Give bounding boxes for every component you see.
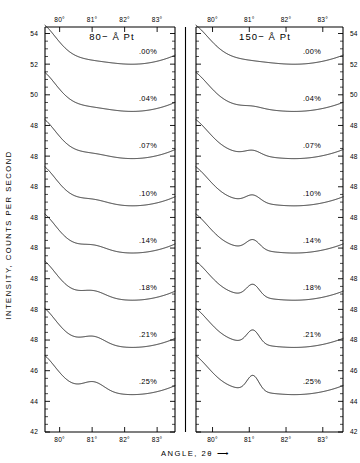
curve-label: .25%: [303, 377, 321, 386]
curve-label: .14%: [139, 236, 157, 245]
x-tick-label: 81°: [244, 436, 255, 443]
y-tick-label: 48: [350, 336, 358, 343]
curve-label: .04%: [139, 94, 157, 103]
y-tick-label: 48: [30, 336, 38, 343]
curve-label: .18%: [303, 283, 321, 292]
y-tick-label: 42: [30, 428, 38, 435]
diffraction-curve: [45, 120, 175, 159]
x-tick-label: 80°: [54, 436, 65, 443]
y-tick-label: 48: [350, 214, 358, 221]
y-tick-label: 50: [350, 91, 358, 98]
curve-label: .00%: [303, 47, 321, 56]
y-tick-label: 48: [30, 153, 38, 160]
y-tick-label: 48: [30, 275, 38, 282]
y-axis-title: INTENSITY, COUNTS PER SECOND: [4, 150, 13, 319]
y-tick-label: 46: [350, 367, 358, 374]
x-tick-label: 81°: [87, 16, 98, 23]
curve-label: .00%: [139, 47, 157, 56]
diffraction-curve: [196, 72, 343, 111]
diffraction-plot: .00%.04%.07%.10%.14%.18%.21%.25%.00%.04%…: [0, 0, 360, 463]
diffraction-curve: [196, 167, 343, 206]
y-tick-label: 52: [350, 61, 358, 68]
y-tick-label: 48: [30, 183, 38, 190]
y-tick-label: 48: [30, 244, 38, 251]
x-tick-label: 83°: [317, 16, 328, 23]
y-tick-label: 48: [30, 214, 38, 221]
diffraction-curve: [196, 308, 343, 347]
x-tick-label: 82°: [281, 436, 292, 443]
x-axis-title: ANGLE, 2θ ⟶: [161, 449, 229, 458]
diffraction-curve: [45, 308, 175, 347]
xrd-figure: .00%.04%.07%.10%.14%.18%.21%.25%.00%.04%…: [0, 0, 360, 463]
y-tick-label: 48: [350, 275, 358, 282]
diffraction-curve: [45, 167, 175, 206]
y-tick-label: 54: [30, 30, 38, 37]
x-tick-label: 81°: [244, 16, 255, 23]
y-tick-label: 48: [30, 306, 38, 313]
panel-title-left: 80− Å Pt: [89, 31, 135, 42]
diffraction-curve: [196, 261, 343, 300]
x-tick-label: 82°: [119, 16, 130, 23]
x-tick-label: 81°: [87, 436, 98, 443]
curve-label: .25%: [139, 377, 157, 386]
curve-label: .10%: [139, 189, 157, 198]
curves-layer: [45, 25, 343, 394]
y-tick-label: 48: [30, 122, 38, 129]
x-tick-label: 82°: [119, 436, 130, 443]
x-tick-label: 80°: [207, 436, 218, 443]
diffraction-curve: [45, 356, 175, 395]
x-tick-label: 80°: [207, 16, 218, 23]
curve-label: .21%: [139, 330, 157, 339]
y-tick-label: 42: [350, 428, 358, 435]
diffraction-curve: [196, 120, 343, 159]
curve-label: .04%: [303, 94, 321, 103]
y-tick-label: 44: [30, 398, 38, 405]
curve-label: .21%: [303, 330, 321, 339]
curve-label: .07%: [139, 141, 157, 150]
curve-label: .10%: [303, 189, 321, 198]
diffraction-curve: [45, 72, 175, 111]
curve-label: .14%: [303, 236, 321, 245]
labels-layer: .00%.04%.07%.10%.14%.18%.21%.25%.00%.04%…: [30, 16, 358, 443]
panel-frame-right: [196, 27, 343, 432]
y-tick-label: 48: [350, 122, 358, 129]
axes-layer: [45, 27, 343, 432]
x-tick-label: 83°: [152, 436, 163, 443]
x-tick-label: 83°: [152, 16, 163, 23]
y-tick-label: 50: [30, 91, 38, 98]
y-tick-label: 48: [350, 244, 358, 251]
y-tick-label: 44: [350, 398, 358, 405]
x-tick-label: 82°: [281, 16, 292, 23]
curve-label: .18%: [139, 283, 157, 292]
diffraction-curve: [45, 261, 175, 300]
y-tick-label: 46: [30, 367, 38, 374]
curve-label: .07%: [303, 141, 321, 150]
y-tick-label: 48: [350, 183, 358, 190]
y-tick-label: 48: [350, 306, 358, 313]
diffraction-curve: [196, 214, 343, 253]
x-tick-label: 83°: [317, 436, 328, 443]
panel-title-right: 150− Å Pt: [239, 31, 291, 42]
y-tick-label: 52: [30, 61, 38, 68]
diffraction-curve: [196, 356, 343, 395]
panel-frame-left: [45, 27, 175, 432]
diffraction-curve: [45, 214, 175, 253]
y-tick-label: 48: [350, 153, 358, 160]
y-tick-label: 54: [350, 30, 358, 37]
x-tick-label: 80°: [54, 16, 65, 23]
